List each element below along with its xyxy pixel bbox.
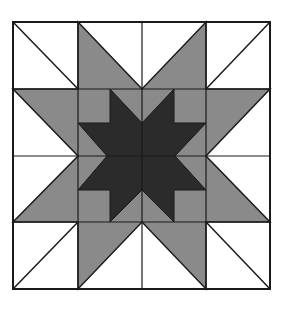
quilt-block-diagram [0,0,286,315]
quilt-block-svg [0,0,286,315]
